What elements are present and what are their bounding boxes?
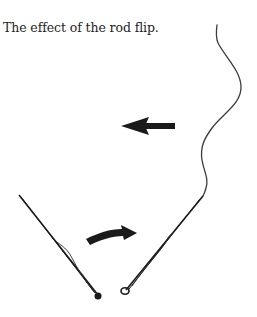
curved-arrow-icon [86, 225, 137, 245]
left-arrow-icon [121, 117, 175, 135]
fly-line [201, 25, 241, 196]
rod-flip-diagram [0, 0, 257, 317]
rod-before-icon [19, 195, 102, 300]
rod-after-icon [121, 196, 203, 294]
